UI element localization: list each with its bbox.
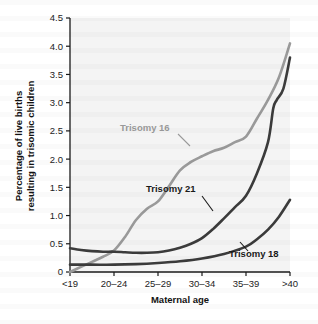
plot-area-background — [70, 18, 290, 272]
y-tick-label: 1.0 — [50, 210, 63, 221]
x-tick-label: 25–29 — [145, 278, 171, 289]
y-tick-label: 1.5 — [50, 182, 63, 193]
y-axis-title-line2: resulting in trisomic children — [25, 81, 36, 212]
y-tick-label: 2.0 — [50, 154, 63, 165]
y-tick-label: 3.5 — [50, 69, 63, 80]
y-tick-label: 3.0 — [50, 97, 63, 108]
y-axis-tick-labels: 00.51.01.52.02.53.03.54.04.5 — [50, 12, 63, 277]
series-label-trisomy-16: Trisomy 16 — [120, 122, 170, 133]
x-tick-label: <19 — [62, 278, 78, 289]
x-axis-tick-labels: <1920–2425–2930–3435–39>40 — [62, 278, 298, 289]
y-tick-label: 0.5 — [50, 238, 63, 249]
y-tick-label: 0 — [58, 266, 63, 277]
y-tick-label: 2.5 — [50, 125, 63, 136]
series-label-trisomy-18: Trisomy 18 — [229, 248, 279, 259]
y-tick-label: 4.5 — [50, 12, 63, 23]
x-axis-title: Maternal age — [151, 294, 209, 305]
series-label-trisomy-21: Trisomy 21 — [146, 183, 196, 194]
x-tick-label: 35–39 — [233, 278, 259, 289]
x-tick-label: >40 — [282, 278, 298, 289]
y-tick-label: 4.0 — [50, 41, 63, 52]
x-tick-label: 20–24 — [101, 278, 127, 289]
y-axis-title-line1: Percentage of live births — [13, 91, 24, 201]
trisomy-line-chart: 00.51.01.52.02.53.03.54.04.5 <1920–2425–… — [0, 0, 318, 324]
chart-figure: 00.51.01.52.02.53.03.54.04.5 <1920–2425–… — [0, 0, 318, 324]
x-tick-label: 30–34 — [189, 278, 215, 289]
